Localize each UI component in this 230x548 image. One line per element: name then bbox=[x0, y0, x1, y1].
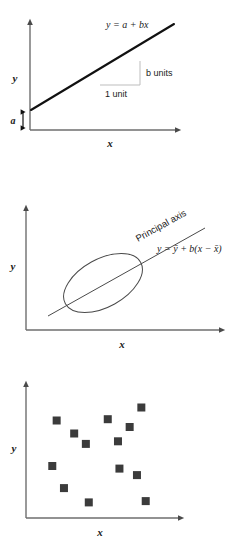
panel-1-rise-label: b units bbox=[146, 68, 173, 78]
panel-3-svg: y x bbox=[0, 370, 230, 548]
panel-1-run-label: 1 unit bbox=[105, 89, 128, 99]
panel-2-confidence-ellipse bbox=[54, 241, 152, 325]
scatter-point bbox=[48, 462, 56, 470]
scatter-point bbox=[60, 484, 68, 492]
panel-scatter-plot: y x bbox=[0, 370, 230, 548]
scatter-point bbox=[126, 423, 134, 431]
panel-linear-regression: y x y = a + bx a 1 unit b units bbox=[0, 0, 230, 180]
scatter-point bbox=[70, 430, 78, 438]
scatter-point bbox=[114, 437, 122, 445]
panel-2-principal-axis-line bbox=[48, 228, 205, 316]
scatter-point bbox=[85, 498, 93, 506]
scatter-point bbox=[82, 440, 90, 448]
scatter-point bbox=[115, 465, 123, 473]
panel-1-svg: y x y = a + bx a 1 unit b units bbox=[0, 0, 230, 180]
panel-1-y-axis-label: y bbox=[11, 72, 18, 84]
panel-3-marker-group bbox=[48, 404, 149, 507]
panel-1-equation-label: y = a + bx bbox=[105, 19, 149, 30]
panel-3-y-axis-label: y bbox=[10, 442, 17, 454]
panel-principal-axis: y x Principal axis y = ȳ + b(x − x̄) bbox=[0, 180, 230, 370]
panel-2-principal-axis-label: Principal axis bbox=[134, 207, 189, 244]
scatter-point bbox=[53, 417, 61, 425]
panel-1-x-axis-label: x bbox=[106, 137, 113, 149]
scatter-point bbox=[133, 471, 141, 479]
scatter-point bbox=[137, 404, 145, 412]
panel-3-x-axis-label: x bbox=[96, 526, 103, 538]
panel-2-equation-label: y = ȳ + b(x − x̄) bbox=[156, 243, 222, 255]
scatter-point bbox=[104, 415, 112, 423]
panel-2-svg: y x Principal axis y = ȳ + b(x − x̄) bbox=[0, 180, 230, 370]
scatter-point bbox=[142, 497, 150, 505]
panel-2-x-axis-label: x bbox=[118, 338, 125, 350]
panel-1-regression-line bbox=[31, 24, 174, 110]
panel-1-intercept-label: a bbox=[11, 115, 16, 126]
panel-2-y-axis-label: y bbox=[9, 260, 16, 272]
figure-container: y x y = a + bx a 1 unit b units y bbox=[0, 0, 230, 548]
